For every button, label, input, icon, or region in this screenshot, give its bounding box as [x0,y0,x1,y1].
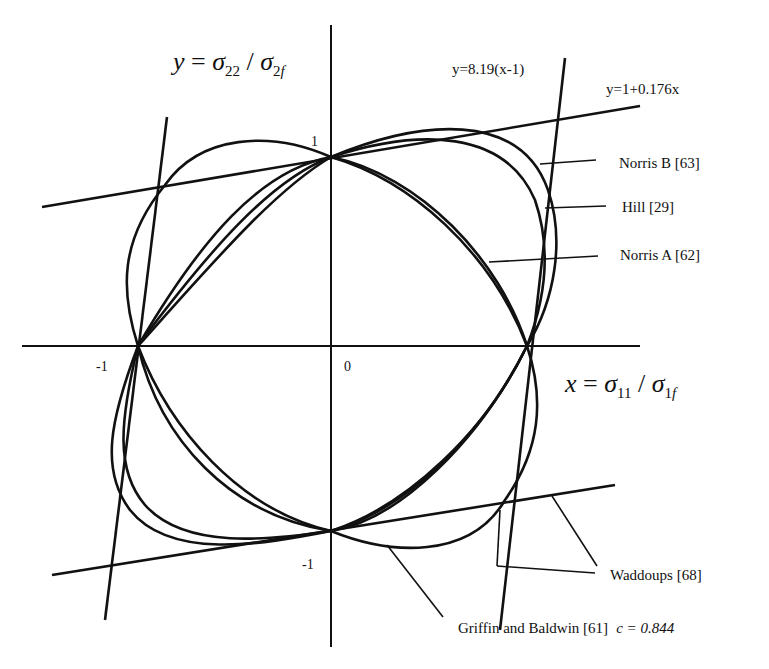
tick-y-neg-1: -1 [302,557,314,572]
label-norris-a: Norris A [62] [620,247,700,263]
leader-norris-b [540,160,596,164]
norris-a-curve-q3 [138,346,331,531]
failure-criteria-figure: y = σ22 / σ2f x = σ11 / σ1f 1 -1 0 -1 y=… [0,0,769,669]
griffin-curve-q3 [138,346,331,531]
y-axis-label: y = σ22 / σ2f [170,47,287,79]
norris-b-curve-q3 [112,346,331,545]
label-waddoups: Waddoups [68] [610,567,702,583]
leader-waddoups-a [497,566,595,573]
leader-waddoups-b [552,496,597,566]
diagram-canvas: y = σ22 / σ2f x = σ11 / σ1f 1 -1 0 -1 y=… [0,0,769,669]
label-griffin-baldwin: Griffin and Baldwin [61]c = 0.844 [458,620,675,636]
equation-shallow-line: y=1+0.176x [606,81,680,97]
label-norris-b: Norris B [63] [619,155,700,171]
tick-x-neg-1: -1 [96,359,108,374]
tick-origin: 0 [344,359,351,374]
norris-b-curve [331,129,556,346]
hill-curve-q3 [123,346,331,539]
equation-steep-line: y=8.19(x-1) [452,61,524,78]
leader-waddoups-c [497,510,500,566]
tick-y-pos-1: 1 [311,134,318,149]
x-axis-label: x = σ11 / σ1f [564,369,678,401]
leader-hill [545,206,606,208]
griffin-curve-q1 [331,157,527,346]
label-hill: Hill [29] [622,199,674,215]
norris-a-curve [331,157,527,346]
leader-griffin [387,545,443,617]
